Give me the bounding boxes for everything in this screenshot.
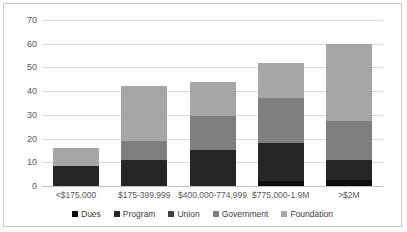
bar-group: $400,000-774,999 xyxy=(178,20,246,186)
legend-label: Dues xyxy=(81,210,101,219)
bar-segment-government[interactable] xyxy=(190,116,236,150)
y-axis-tick-label: 20 xyxy=(27,134,37,143)
y-axis-tick-label: 40 xyxy=(27,87,37,96)
legend-swatch-icon xyxy=(213,211,219,217)
stacked-bar[interactable] xyxy=(121,86,167,186)
bar-segment-foundation[interactable] xyxy=(258,63,304,99)
bar-segment-foundation[interactable] xyxy=(121,86,167,141)
x-axis-tick-label: $175-399,999 xyxy=(118,191,170,200)
legend-item-government[interactable]: Government xyxy=(213,210,269,219)
bar-group: <$175,000 xyxy=(42,20,110,186)
stacked-bar[interactable] xyxy=(326,44,372,186)
bar-segment-program[interactable] xyxy=(53,166,99,186)
legend-label: Foundation xyxy=(290,210,333,219)
bar-segment-dues[interactable] xyxy=(258,181,304,186)
legend-label: Program xyxy=(123,210,156,219)
x-axis-tick-label: $775,000-1.9M xyxy=(252,191,309,200)
bar-segment-dues[interactable] xyxy=(326,180,372,186)
y-axis-tick-label: 50 xyxy=(27,63,37,72)
bar-segment-program[interactable] xyxy=(121,160,167,186)
bar-segment-program[interactable] xyxy=(258,143,304,181)
bar-segment-foundation[interactable] xyxy=(326,44,372,121)
y-axis-tick-label: 70 xyxy=(27,16,37,25)
y-axis-tick-label: 0 xyxy=(32,182,37,191)
legend-swatch-icon xyxy=(72,211,78,217)
legend-item-dues[interactable]: Dues xyxy=(72,210,101,219)
plot-area: 010203040506070 <$175,000$175-399,999$40… xyxy=(42,20,383,186)
legend-swatch-icon xyxy=(281,211,287,217)
y-axis-tick-label: 60 xyxy=(27,39,37,48)
chart-legend: DuesProgramUnionGovernmentFoundation xyxy=(4,210,401,219)
bar-segment-government[interactable] xyxy=(326,121,372,160)
stacked-bar[interactable] xyxy=(53,148,99,186)
x-axis-tick-label: $400,000-774,999 xyxy=(178,191,247,200)
x-axis-tick-label: <$175,000 xyxy=(56,191,96,200)
stacked-bar[interactable] xyxy=(258,63,304,186)
bar-group: >$2M xyxy=(315,20,383,186)
stacked-bar[interactable] xyxy=(190,82,236,186)
bar-series-container: <$175,000$175-399,999$400,000-774,999$77… xyxy=(42,20,383,186)
legend-item-program[interactable]: Program xyxy=(114,210,156,219)
bar-group: $775,000-1.9M xyxy=(247,20,315,186)
legend-swatch-icon xyxy=(114,211,120,217)
bar-group: $175-399,999 xyxy=(110,20,178,186)
legend-label: Government xyxy=(222,210,269,219)
bar-segment-program[interactable] xyxy=(190,150,236,186)
legend-item-union[interactable]: Union xyxy=(168,210,199,219)
y-axis-tick-label: 10 xyxy=(27,158,37,167)
bar-segment-government[interactable] xyxy=(121,141,167,160)
bar-segment-government[interactable] xyxy=(258,98,304,143)
legend-label: Union xyxy=(177,210,199,219)
legend-swatch-icon xyxy=(168,211,174,217)
bar-segment-foundation[interactable] xyxy=(53,148,99,166)
x-axis-tick-label: >$2M xyxy=(338,191,360,200)
y-axis-tick-label: 30 xyxy=(27,110,37,119)
chart-frame: 010203040506070 <$175,000$175-399,999$40… xyxy=(3,3,402,227)
bar-segment-foundation[interactable] xyxy=(190,82,236,116)
bar-segment-program[interactable] xyxy=(326,160,372,180)
axis-line-zero xyxy=(42,186,383,187)
legend-item-foundation[interactable]: Foundation xyxy=(281,210,333,219)
